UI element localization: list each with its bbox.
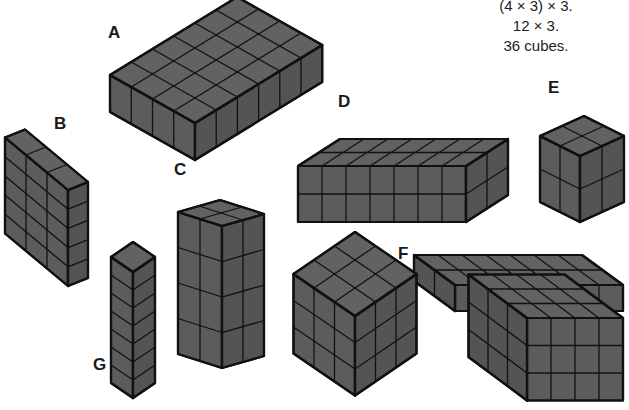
label-c: C <box>174 161 186 178</box>
solids-diagram <box>0 0 629 410</box>
label-e: E <box>548 79 559 96</box>
solid-e <box>540 116 624 222</box>
right-face <box>68 182 88 286</box>
caption-line-3: 36 cubes. <box>471 36 601 56</box>
solid-g <box>111 242 155 398</box>
solid-d <box>298 139 508 222</box>
label-g: G <box>93 356 106 373</box>
caption-line-2: 12 × 3. <box>471 16 601 36</box>
solid-b <box>5 130 88 287</box>
label-b: B <box>54 115 66 132</box>
answer-caption: (4 × 3) × 3. 12 × 3. 36 cubes. <box>471 0 601 56</box>
right-face <box>133 257 155 398</box>
solid-a <box>110 0 322 160</box>
caption-line-1: (4 × 3) × 3. <box>471 0 601 16</box>
label-a: A <box>108 24 120 41</box>
label-f: F <box>398 245 408 262</box>
label-d: D <box>338 93 350 110</box>
left-face <box>111 257 133 398</box>
solid-c <box>178 200 264 368</box>
